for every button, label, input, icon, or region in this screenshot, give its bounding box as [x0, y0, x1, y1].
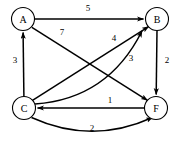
node-c-label: C [21, 103, 28, 114]
edge-b-to-f-weight: 2 [165, 55, 170, 65]
edge-c-to-b-curved-weight: 3 [129, 53, 134, 63]
edge-c-to-a-weight: 3 [13, 55, 18, 65]
edge-c-to-f-curved: 2 [32, 118, 153, 134]
edge-c-to-b-curved: 3 [35, 31, 142, 104]
node-a-label: A [19, 14, 27, 25]
edge-c-to-f-curved-weight: 2 [90, 123, 95, 133]
node-f-label: F [153, 103, 159, 114]
node-a[interactable]: A [12, 8, 35, 31]
edge-a-to-f-weight: 7 [60, 27, 65, 37]
graph-canvas: 5 7 3 4 3 2 1 [0, 0, 176, 143]
edge-f-to-c-weight: 1 [108, 95, 113, 105]
node-c[interactable]: C [13, 97, 36, 120]
edge-c-to-b-curved-line [35, 31, 142, 104]
edge-a-to-b: 5 [35, 3, 144, 19]
node-b[interactable]: B [146, 8, 169, 31]
edge-c-to-a: 3 [13, 33, 24, 97]
edge-c-to-a-line [23, 33, 24, 97]
graph-diagram: 5 7 3 4 3 2 1 [0, 0, 176, 143]
node-f[interactable]: F [145, 97, 168, 120]
edge-b-to-f-line [156, 31, 157, 95]
edge-a-to-b-weight: 5 [86, 3, 91, 13]
edge-c-to-b-straight-weight: 4 [112, 33, 117, 43]
edge-b-to-f: 2 [156, 31, 169, 95]
node-b-label: B [154, 14, 161, 25]
